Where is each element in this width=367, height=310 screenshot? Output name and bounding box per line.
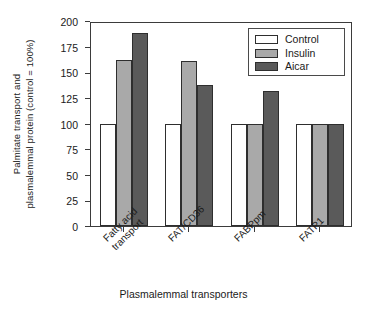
x-axis-title: Plasmalemmal transporters xyxy=(0,288,367,300)
bar-control xyxy=(100,124,116,227)
legend-label-control: Control xyxy=(285,34,319,45)
bar-group xyxy=(165,23,213,226)
y-axis-tick-label: 150 xyxy=(38,68,78,78)
bar-insulin xyxy=(116,60,132,226)
bar-insulin xyxy=(312,124,328,227)
legend: Control Insulin Aicar xyxy=(248,28,345,76)
legend-label-insulin: Insulin xyxy=(285,48,315,59)
legend-item-insulin: Insulin xyxy=(255,47,339,60)
bar-control xyxy=(296,124,312,227)
y-axis-tick-label: 125 xyxy=(38,94,78,104)
y-axis-tick-label: 0 xyxy=(38,222,78,232)
y-axis-tick-label: 200 xyxy=(38,17,78,27)
bar-control xyxy=(165,124,181,227)
legend-item-control: Control xyxy=(255,33,339,46)
legend-label-aicar: Aicar xyxy=(285,61,309,72)
bar-aicar xyxy=(263,91,279,226)
legend-item-aicar: Aicar xyxy=(255,60,339,73)
y-axis-title-line2: plasmalemmal protein (control = 100%) xyxy=(23,39,36,208)
legend-swatch-aicar xyxy=(255,62,278,71)
bar-aicar xyxy=(328,124,344,227)
bar-chart-figure: Palmitate transport and plasmalemmal pro… xyxy=(0,0,367,310)
y-axis-tick-label: 50 xyxy=(38,171,78,181)
y-axis-tick-label: 175 xyxy=(38,43,78,53)
bar-control xyxy=(231,124,247,227)
y-axis-tick-label: 100 xyxy=(38,120,78,130)
legend-swatch-insulin xyxy=(255,49,278,58)
bar-insulin xyxy=(181,61,197,226)
y-axis-tick-label: 25 xyxy=(38,196,78,206)
legend-swatch-control xyxy=(255,35,278,44)
y-axis-title-line1: Palmitate transport and xyxy=(10,39,23,208)
bar-aicar xyxy=(132,33,148,226)
y-axis-tick-label: 75 xyxy=(38,145,78,155)
bar-group xyxy=(100,23,148,226)
